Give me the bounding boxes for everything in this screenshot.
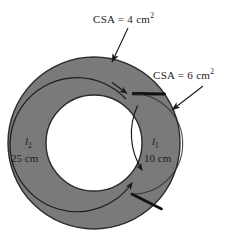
csa-top-exponent: 2 <box>150 11 154 20</box>
path-l1-symbol: l1 <box>152 136 159 147</box>
csa-top-label: CSA = 4 cm2 <box>93 14 154 25</box>
ring-inner-circle <box>46 95 142 191</box>
csa-right-exponent: 2 <box>210 67 214 76</box>
path-l2-length: 25 cm <box>11 153 38 164</box>
csa-right-label: CSA = 6 cm2 <box>153 70 214 81</box>
path-l2-symbol: l2 <box>25 136 32 147</box>
path-l1-length: 10 cm <box>144 153 171 164</box>
leader-arrow-icon <box>112 28 128 62</box>
leader-arrow-icon <box>172 86 203 110</box>
path-l2-subscript: 2 <box>28 141 32 150</box>
ring-diagram <box>0 0 240 239</box>
path-l1-subscript: 1 <box>155 141 159 150</box>
csa-top-text: CSA = 4 cm <box>93 13 150 25</box>
csa-right-text: CSA = 6 cm <box>153 69 210 81</box>
